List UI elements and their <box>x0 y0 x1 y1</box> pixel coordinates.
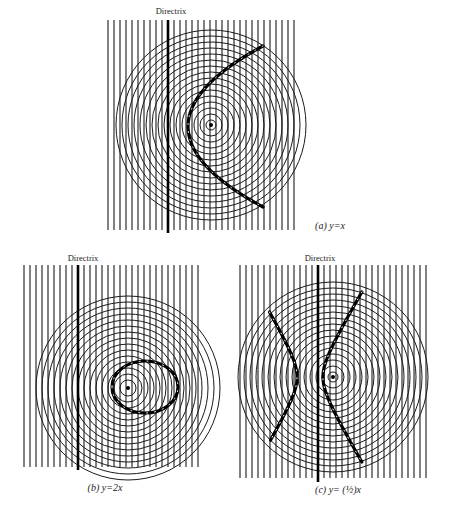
focus-point <box>209 123 213 127</box>
focus-point <box>126 386 130 390</box>
panel-b-ellipse: Directrix (b) y=2x <box>24 253 220 494</box>
focus-dot <box>209 123 213 127</box>
directrix-label: Directrix <box>305 253 336 263</box>
panel-a-parabola: Directrix (a) y=x <box>108 6 345 233</box>
directrix-label: Directrix <box>156 6 187 16</box>
focus-dot <box>126 386 130 390</box>
parallel-lines <box>108 20 294 230</box>
focus-dot <box>331 375 335 379</box>
panel-caption: (c) y= (½)x <box>315 484 361 496</box>
panel-caption: (b) y=2x <box>88 482 123 494</box>
focus-point <box>331 375 335 379</box>
panel-caption: (a) y=x <box>315 220 345 232</box>
conic-sections-figure: Directrix (a) y=x Directrix (b) y=2x Dir… <box>0 0 453 518</box>
directrix-label: Directrix <box>68 253 99 263</box>
panel-c-hyperbola: Directrix (c) y= (½)x <box>238 253 428 496</box>
